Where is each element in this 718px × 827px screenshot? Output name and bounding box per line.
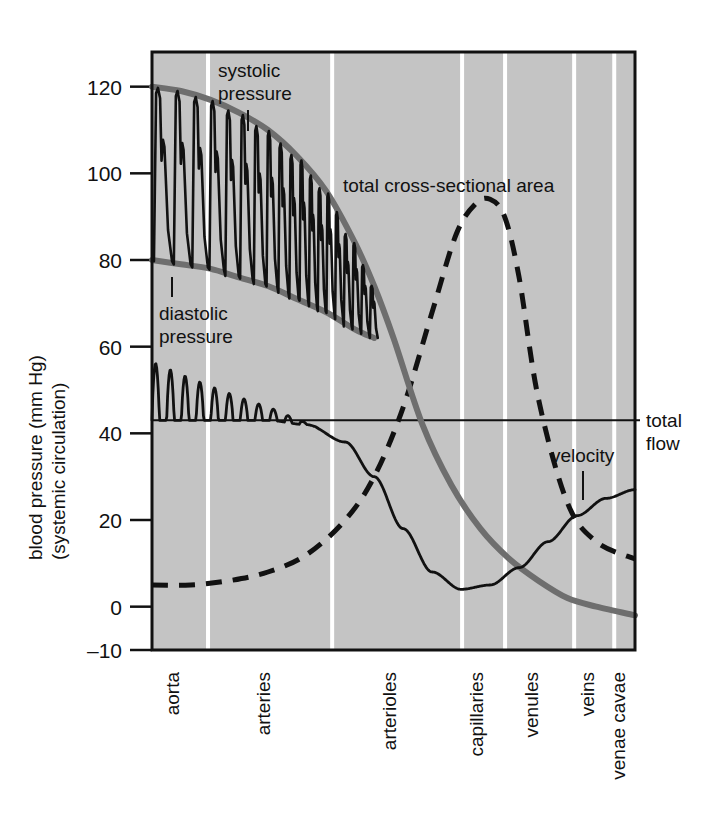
- velocity-label: velocity: [551, 445, 615, 466]
- figure-root: –10020406080100120 systolic pressure dia…: [0, 0, 718, 827]
- y-axis-tick-label: 0: [110, 596, 122, 619]
- x-axis-category-label: venules: [521, 672, 542, 738]
- y-axis-tick-label: 60: [99, 336, 122, 359]
- y-axis-tick-label: 20: [99, 509, 122, 532]
- total-flow-label-line2: flow: [646, 433, 680, 454]
- systolic-label-line2: pressure: [218, 83, 292, 104]
- x-axis-category-label: veins: [577, 672, 598, 716]
- blood-pressure-chart: –10020406080100120 systolic pressure dia…: [0, 0, 718, 827]
- y-axis-title-line2: (systemic circulation): [48, 383, 69, 560]
- x-axis-category-label: arterioles: [379, 672, 400, 750]
- y-axis-tick-label: 80: [99, 249, 122, 272]
- x-axis-category-label: capillaries: [466, 672, 487, 756]
- y-axis-tick-label: 120: [87, 76, 122, 99]
- systolic-label-line1: systolic: [218, 60, 280, 81]
- plot-background: [152, 52, 635, 650]
- total-cross-sectional-area-label: total cross-sectional area: [343, 175, 555, 196]
- y-axis-title-line1: blood pressure (mm Hg): [25, 355, 46, 560]
- x-axis-category-label: venae cavae: [608, 672, 629, 780]
- diastolic-label-line2: pressure: [159, 326, 233, 347]
- x-axis-category-label: arteries: [253, 672, 274, 735]
- y-axis-tick-label: 100: [87, 162, 122, 185]
- y-axis-tick-label: –10: [87, 639, 122, 662]
- total-flow-label-line1: total: [646, 410, 682, 431]
- y-axis-tick-label: 40: [99, 422, 122, 445]
- x-axis-category-label: aorta: [162, 672, 183, 716]
- diastolic-label-line1: diastolic: [159, 303, 228, 324]
